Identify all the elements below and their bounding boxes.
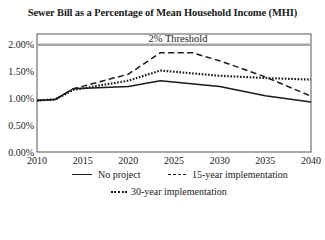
- series-line-dashed: [37, 53, 311, 101]
- y-tick-label: 0.50%: [8, 120, 34, 131]
- legend-item-15-year: 15-year implementation: [168, 169, 288, 180]
- y-tick-label: 1.00%: [8, 93, 34, 104]
- plot-frame: [37, 34, 311, 152]
- x-tick-label: 2030: [210, 155, 230, 166]
- x-tick-label: 2010: [27, 155, 47, 166]
- x-tick-label: 2040: [301, 155, 321, 166]
- threshold-label: 2% Threshold: [148, 33, 208, 44]
- dashed-line-swatch-icon: [168, 174, 186, 175]
- x-tick-label: 2025: [164, 155, 184, 166]
- legend-item-30-year: 30-year implementation: [111, 186, 227, 197]
- x-tick-label: 2015: [73, 155, 93, 166]
- legend-item-no-project: No project: [72, 169, 141, 180]
- dotted-line-swatch-icon: [111, 191, 127, 193]
- y-tick-label: 1.50%: [8, 66, 34, 77]
- legend-label: No project: [98, 169, 141, 180]
- legend-label: 15-year implementation: [192, 169, 288, 180]
- y-tick-label: 2.00%: [8, 39, 34, 50]
- legend-label: 30-year implementation: [131, 186, 227, 197]
- solid-line-swatch-icon: [72, 174, 92, 175]
- series-line-solid: [37, 81, 311, 102]
- x-tick-label: 2020: [118, 155, 138, 166]
- x-tick-label: 2035: [255, 155, 275, 166]
